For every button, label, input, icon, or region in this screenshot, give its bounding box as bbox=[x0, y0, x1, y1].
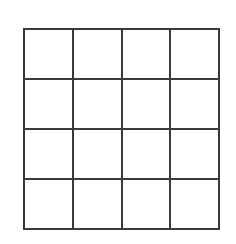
grid-figure bbox=[24, 29, 219, 229]
grid-cell-r3-c4[interactable] bbox=[170, 129, 219, 179]
grid-cell-r2-c4[interactable] bbox=[170, 79, 219, 129]
grid-cell-r2-c1[interactable] bbox=[24, 79, 73, 129]
grid-cell-r3-c2[interactable] bbox=[73, 129, 122, 179]
grid-cell-r4-c1[interactable] bbox=[24, 179, 73, 229]
grid-cell-r1-c4[interactable] bbox=[170, 29, 219, 79]
grid-cell-r3-c1[interactable] bbox=[24, 129, 73, 179]
grid-cell-r3-c3[interactable] bbox=[122, 129, 171, 179]
grid-cell-r2-c2[interactable] bbox=[73, 79, 122, 129]
grid-cell-r4-c2[interactable] bbox=[73, 179, 122, 229]
grid-svg bbox=[24, 29, 219, 229]
grid-cell-r1-c1[interactable] bbox=[24, 29, 73, 79]
grid-cell-r4-c3[interactable] bbox=[122, 179, 171, 229]
figure-canvas bbox=[0, 0, 236, 244]
grid-cell-r4-c4[interactable] bbox=[170, 179, 219, 229]
grid-cell-r1-c2[interactable] bbox=[73, 29, 122, 79]
grid-cell-r1-c3[interactable] bbox=[122, 29, 171, 79]
grid-cell-r2-c3[interactable] bbox=[122, 79, 171, 129]
